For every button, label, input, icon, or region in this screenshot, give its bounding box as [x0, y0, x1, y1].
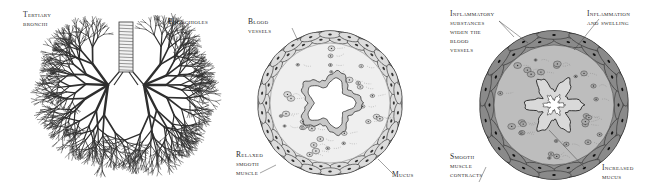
- lungs-illustration: [31, 13, 221, 177]
- normal-airway-cross-section: [257, 28, 403, 176]
- label-tertiary-bronchi: Tertiary bronchi: [23, 10, 51, 28]
- label-mucus: Mucus: [392, 170, 414, 179]
- label-inflammation-swelling: Inflammation and swelling: [587, 9, 630, 27]
- figure-canvas: [0, 0, 657, 191]
- label-increased-mucus: Increased mucus: [602, 163, 634, 181]
- trachea: [108, 22, 144, 85]
- label-blood-vessels: Blood vessels: [248, 17, 271, 35]
- label-smooth-muscle-contracts: Smooth muscle contracts: [450, 152, 482, 179]
- label-bronchioles: Bronchioles: [168, 17, 208, 26]
- label-relaxed-smooth-muscle: Relaxed smooth muscle: [236, 150, 263, 177]
- label-inflammatory-substances: Inflammatory substances widen the blood …: [450, 9, 494, 54]
- inflamed-airway-cross-section: [478, 19, 631, 182]
